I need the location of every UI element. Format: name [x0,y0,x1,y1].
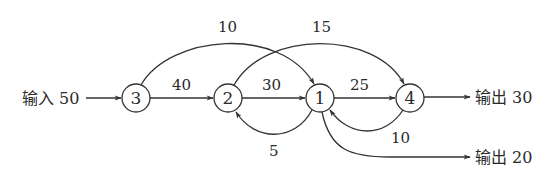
edge-4-to-1: 10 [330,110,410,147]
input-label: 输入 50 [22,89,79,108]
node-2: 2 [214,84,242,112]
node-3: 3 [122,84,150,112]
input-flow: 输入 50 [22,89,121,108]
edge-1-to-2: 5 [236,110,312,160]
output-label: 输出 20 [475,148,532,167]
edge-value: 10 [391,129,410,147]
node-label: 3 [131,88,142,108]
edge-3-to-1: 10 [141,18,314,85]
node-4: 4 [396,84,424,112]
edge-value: 5 [269,142,279,160]
arrow [234,44,404,85]
edge-2-to-1: 30 [242,76,305,98]
node-1: 1 [306,84,334,112]
node-label: 4 [405,88,416,108]
node-label: 1 [315,88,326,108]
arrow [236,110,312,134]
output-from-1: 输出 20 [322,112,532,167]
edge-1-to-4: 25 [334,76,395,98]
flow-diagram: 输入 50 40 30 25 10 15 [0,0,549,174]
arrow [141,44,314,85]
output-from-4: 输出 30 [424,88,532,107]
edge-value: 15 [312,18,331,36]
edge-value: 10 [218,18,237,36]
node-label: 2 [223,88,234,108]
output-label: 输出 30 [475,88,532,107]
arrow [330,110,403,131]
edge-value: 25 [350,76,369,94]
edge-value: 40 [172,76,191,94]
edge-value: 30 [262,76,281,94]
edge-2-to-4: 15 [234,18,404,85]
edge-3-to-2: 40 [150,76,213,98]
